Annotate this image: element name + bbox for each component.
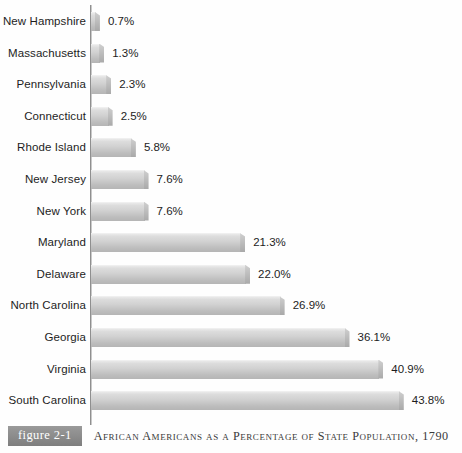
bar-fill	[91, 202, 145, 221]
bar	[91, 138, 132, 157]
bar	[91, 44, 100, 63]
bar-end-bevel	[106, 75, 111, 94]
bar	[91, 12, 96, 31]
bar-row: North Carolina26.9%	[0, 290, 462, 321]
bar-end-bevel	[108, 107, 113, 126]
bar-value-label: 2.5%	[121, 101, 147, 132]
figure-container: New Hampshire0.7%Massachusetts1.3%Pennsy…	[0, 0, 462, 453]
bar-fill	[91, 328, 346, 347]
bar-value-label: 5.8%	[144, 132, 170, 163]
bar-fill	[91, 107, 109, 126]
bar-end-bevel	[144, 202, 149, 221]
bar-value-label: 26.9%	[293, 290, 326, 321]
bar-fill	[91, 296, 281, 315]
bar-row: Massachusetts1.3%	[0, 38, 462, 69]
bar-fill	[91, 391, 400, 410]
bar-end-bevel	[378, 360, 383, 379]
figure-caption-text: African Americans as a Percentage of Sta…	[94, 429, 449, 444]
bar-chart-plot-area: New Hampshire0.7%Massachusetts1.3%Pennsy…	[0, 0, 462, 425]
bar-category-label: Massachusetts	[8, 38, 86, 69]
bar-category-label: South Carolina	[9, 385, 86, 416]
bar-category-label: Pennsylvania	[16, 69, 86, 100]
bar-end-bevel	[399, 391, 404, 410]
bar-value-label: 2.3%	[119, 69, 145, 100]
bar-fill	[91, 360, 379, 379]
bar-row: Pennsylvania2.3%	[0, 69, 462, 100]
bar-end-bevel	[345, 328, 350, 347]
figure-caption: figure 2-1 African Americans as a Percen…	[0, 425, 462, 447]
bar-row: Delaware22.0%	[0, 259, 462, 290]
bar-fill	[91, 265, 246, 284]
bar-row: Maryland21.3%	[0, 227, 462, 258]
bar-fill	[91, 44, 100, 63]
bar-value-label: 22.0%	[258, 259, 291, 290]
bar-value-label: 7.6%	[157, 164, 183, 195]
bar	[91, 233, 241, 252]
bar-row: New Hampshire0.7%	[0, 6, 462, 37]
bar	[91, 265, 246, 284]
bar-value-label: 40.9%	[391, 354, 424, 385]
bar-row: New York7.6%	[0, 196, 462, 227]
bar	[91, 360, 379, 379]
bar	[91, 296, 281, 315]
bar-value-label: 36.1%	[358, 322, 391, 353]
bar	[91, 328, 346, 347]
bar	[91, 391, 400, 410]
bar-end-bevel	[144, 170, 149, 189]
bar-row: Georgia36.1%	[0, 322, 462, 353]
bar-category-label: Delaware	[37, 259, 86, 290]
bar-category-label: North Carolina	[10, 290, 86, 321]
bar-end-bevel	[240, 233, 245, 252]
bar-end-bevel	[95, 12, 100, 31]
bar-row: Rhode Island5.8%	[0, 132, 462, 163]
bar-value-label: 21.3%	[253, 227, 286, 258]
bar	[91, 75, 107, 94]
bar-end-bevel	[99, 44, 104, 63]
bar-value-label: 1.3%	[112, 38, 138, 69]
bar-category-label: Maryland	[38, 227, 86, 258]
bar-row: South Carolina43.8%	[0, 385, 462, 416]
bar-category-label: Connecticut	[24, 101, 86, 132]
bar-row: Virginia40.9%	[0, 354, 462, 385]
figure-number-badge: figure 2-1	[8, 426, 82, 446]
bar-value-label: 7.6%	[157, 196, 183, 227]
bar-category-label: Virginia	[47, 354, 86, 385]
bar	[91, 202, 145, 221]
bar-end-bevel	[245, 265, 250, 284]
bar-fill	[91, 138, 132, 157]
bar-value-label: 0.7%	[108, 6, 134, 37]
bar-fill	[91, 233, 241, 252]
bar-value-label: 43.8%	[412, 385, 445, 416]
bar-category-label: New Hampshire	[3, 6, 86, 37]
bar-fill	[91, 75, 107, 94]
bar-category-label: New York	[37, 196, 86, 227]
bar-row: Connecticut2.5%	[0, 101, 462, 132]
bar	[91, 107, 109, 126]
bar-end-bevel	[280, 296, 285, 315]
bar-row: New Jersey7.6%	[0, 164, 462, 195]
bar-fill	[91, 170, 145, 189]
bar-category-label: Rhode Island	[17, 132, 86, 163]
bar-end-bevel	[131, 138, 136, 157]
bar-category-label: Georgia	[44, 322, 86, 353]
bar-category-label: New Jersey	[25, 164, 86, 195]
bar	[91, 170, 145, 189]
